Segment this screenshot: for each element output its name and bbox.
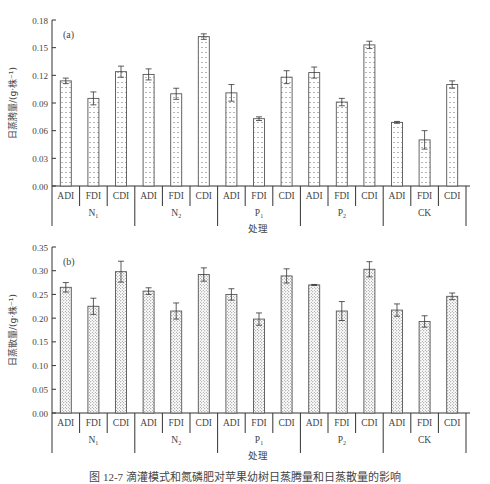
svg-text:ADI: ADI (306, 418, 323, 428)
svg-text:CDI: CDI (361, 191, 377, 201)
svg-text:N2: N2 (171, 435, 181, 446)
svg-text:FDI: FDI (86, 191, 101, 201)
svg-text:ADI: ADI (140, 418, 157, 428)
svg-text:CDI: CDI (361, 418, 377, 428)
svg-text:ADI: ADI (389, 418, 406, 428)
chart-b: 0.000.050.100.150.200.250.300.35日蒸散量/(g·… (7, 243, 470, 462)
chart-a: 0.000.030.060.090.120.150.18日蒸腾量/(g·株⁻¹)… (7, 16, 470, 235)
svg-text:处理: 处理 (248, 223, 268, 234)
svg-text:0.25: 0.25 (32, 290, 48, 300)
svg-text:CK: CK (418, 208, 431, 218)
svg-text:P2: P2 (338, 208, 346, 219)
svg-text:0.06: 0.06 (32, 126, 48, 136)
svg-text:0.12: 0.12 (32, 71, 48, 81)
svg-text:FDI: FDI (251, 191, 266, 201)
svg-text:CDI: CDI (278, 418, 294, 428)
svg-text:FDI: FDI (334, 418, 349, 428)
svg-text:ADI: ADI (306, 191, 323, 201)
svg-text:0.00: 0.00 (32, 409, 48, 419)
svg-text:CDI: CDI (196, 191, 212, 201)
svg-text:CDI: CDI (113, 191, 129, 201)
svg-text:(b): (b) (63, 256, 75, 268)
figure-caption: 图 12-7 滴灌模式和氮磷肥对苹果幼树日蒸腾量和日蒸散量的影响 (0, 468, 490, 484)
svg-text:ADI: ADI (140, 191, 157, 201)
svg-text:CDI: CDI (444, 418, 460, 428)
svg-text:N2: N2 (171, 208, 181, 219)
svg-text:FDI: FDI (417, 418, 432, 428)
svg-text:P2: P2 (338, 435, 346, 446)
svg-text:CDI: CDI (444, 191, 460, 201)
svg-text:0.15: 0.15 (32, 43, 48, 53)
svg-text:0.10: 0.10 (32, 361, 48, 371)
svg-text:CK: CK (418, 435, 431, 445)
svg-text:N1: N1 (88, 435, 98, 446)
svg-text:FDI: FDI (169, 191, 184, 201)
svg-text:日蒸腾量/(g·株⁻¹): 日蒸腾量/(g·株⁻¹) (7, 67, 18, 139)
svg-text:0.09: 0.09 (32, 99, 48, 109)
svg-text:ADI: ADI (223, 191, 240, 201)
svg-text:ADI: ADI (223, 418, 240, 428)
svg-text:0.05: 0.05 (32, 385, 48, 395)
svg-text:ADI: ADI (57, 191, 74, 201)
svg-text:P1: P1 (255, 208, 263, 219)
svg-text:0.35: 0.35 (32, 243, 48, 253)
svg-text:处理: 处理 (248, 450, 268, 461)
svg-text:0.00: 0.00 (32, 182, 48, 192)
svg-text:ADI: ADI (389, 191, 406, 201)
svg-text:0.20: 0.20 (32, 314, 48, 324)
svg-text:CDI: CDI (196, 418, 212, 428)
svg-text:FDI: FDI (169, 418, 184, 428)
svg-text:FDI: FDI (334, 191, 349, 201)
svg-text:ADI: ADI (57, 418, 74, 428)
svg-text:CDI: CDI (278, 191, 294, 201)
svg-text:FDI: FDI (86, 418, 101, 428)
svg-text:FDI: FDI (417, 191, 432, 201)
svg-text:N1: N1 (88, 208, 98, 219)
svg-text:0.15: 0.15 (32, 337, 48, 347)
svg-text:CDI: CDI (113, 418, 129, 428)
svg-text:0.30: 0.30 (32, 266, 48, 276)
svg-text:FDI: FDI (251, 418, 266, 428)
svg-text:P1: P1 (255, 435, 263, 446)
svg-text:0.18: 0.18 (32, 16, 48, 26)
svg-text:日蒸散量/(g·株⁻¹): 日蒸散量/(g·株⁻¹) (7, 294, 18, 366)
svg-text:(a): (a) (63, 29, 74, 41)
svg-text:0.03: 0.03 (32, 154, 48, 164)
